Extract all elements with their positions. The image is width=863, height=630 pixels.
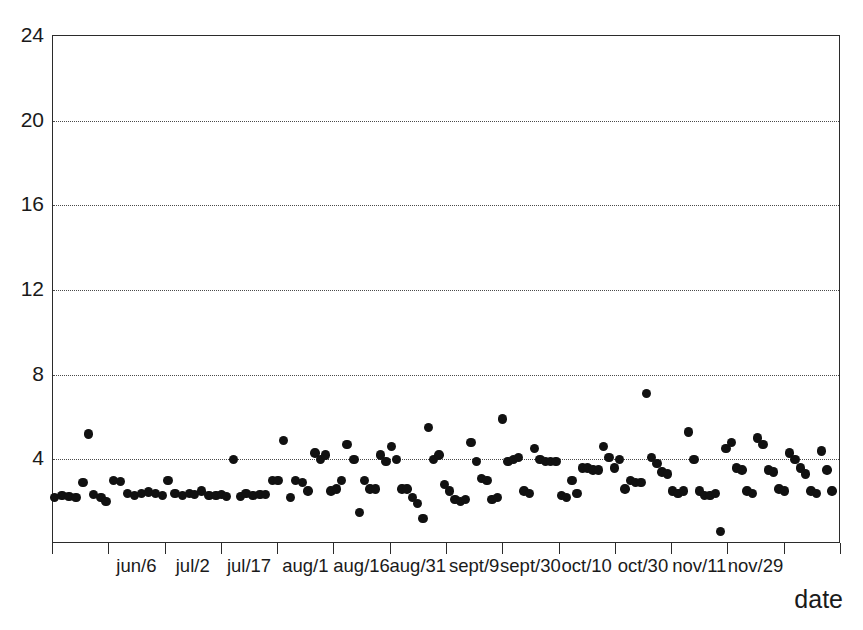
data-point	[769, 467, 778, 476]
x-tick-12	[727, 543, 728, 554]
y-axis-tick-labels: 4812162024	[0, 0, 44, 630]
data-point	[604, 453, 613, 462]
data-point	[392, 455, 401, 464]
x-tick-13	[784, 543, 785, 554]
y-tick-label-4: 4	[32, 447, 44, 468]
x-tick-label-jun-6: jun/6	[116, 555, 156, 577]
data-point	[817, 446, 826, 455]
x-axis-title: date	[794, 585, 843, 613]
data-point	[222, 492, 231, 501]
y-tick-label-20: 20	[21, 109, 44, 130]
data-point	[472, 457, 481, 466]
data-point	[716, 527, 725, 536]
y-tick-label-8: 8	[32, 363, 44, 384]
data-point	[498, 414, 507, 423]
x-tick-4	[277, 543, 278, 554]
x-tick-label-aug-16: aug/16	[333, 555, 390, 577]
data-point	[424, 423, 433, 432]
x-tick-14	[840, 543, 841, 554]
data-point	[737, 465, 746, 474]
gridline-y-12	[53, 290, 839, 291]
data-point	[780, 486, 789, 495]
data-point	[482, 476, 491, 485]
data-point	[711, 489, 720, 498]
data-point	[303, 486, 312, 495]
x-tick-6	[390, 543, 391, 554]
x-tick-9	[559, 543, 560, 554]
data-point	[337, 476, 346, 485]
data-point	[158, 491, 167, 500]
data-point	[273, 476, 282, 485]
data-point	[610, 463, 619, 472]
plot-frame	[52, 35, 840, 543]
data-point	[279, 436, 288, 445]
data-point	[514, 453, 523, 462]
data-point	[599, 442, 608, 451]
data-point	[822, 465, 831, 474]
data-point	[594, 465, 603, 474]
scatter-chart-figure: 4812162024 jun/6jul/2jul/17aug/1aug/16au…	[0, 0, 863, 630]
data-point	[342, 440, 351, 449]
data-point	[812, 489, 821, 498]
data-point	[84, 429, 93, 438]
data-point	[332, 484, 341, 493]
x-tick-label-nov-29: nov/29	[728, 555, 784, 577]
data-point	[355, 508, 364, 517]
data-point	[413, 499, 422, 508]
gridline-y-20	[53, 121, 839, 122]
y-tick-label-24: 24	[21, 24, 44, 45]
data-point	[758, 440, 767, 449]
data-point	[229, 455, 238, 464]
data-point	[642, 389, 651, 398]
x-tick-0	[52, 543, 53, 554]
data-point	[679, 486, 688, 495]
data-point	[381, 457, 390, 466]
plot-area	[53, 36, 839, 542]
data-point	[434, 450, 443, 459]
data-point	[493, 493, 502, 502]
x-tick-label-oct-30: oct/30	[618, 555, 668, 577]
data-point	[801, 469, 810, 478]
data-point	[163, 476, 172, 485]
data-point	[286, 493, 295, 502]
gridline-y-8	[53, 375, 839, 376]
data-point	[78, 478, 87, 487]
data-point	[727, 438, 736, 447]
data-point	[530, 444, 539, 453]
y-tick-label-16: 16	[21, 193, 44, 214]
data-point	[261, 490, 270, 499]
data-point	[418, 514, 427, 523]
x-tick-11	[671, 543, 672, 554]
data-point	[827, 486, 836, 495]
x-tick-label-jul-2: jul/2	[176, 555, 210, 577]
x-tick-7	[446, 543, 447, 554]
data-point	[387, 442, 396, 451]
data-point	[551, 457, 560, 466]
x-tick-8	[502, 543, 503, 554]
x-tick-5	[333, 543, 334, 554]
data-point	[349, 455, 358, 464]
data-point	[371, 484, 380, 493]
data-point	[567, 476, 576, 485]
data-point	[689, 455, 698, 464]
data-point	[116, 477, 125, 486]
x-tick-label-oct-10: oct/10	[562, 555, 612, 577]
data-point	[684, 427, 693, 436]
x-tick-10	[615, 543, 616, 554]
data-point	[636, 478, 645, 487]
data-point	[71, 493, 80, 502]
x-tick-label-aug-1: aug/1	[282, 555, 328, 577]
data-point	[615, 455, 624, 464]
x-tick-1	[108, 543, 109, 554]
x-tick-3	[221, 543, 222, 554]
data-point	[525, 489, 534, 498]
data-point	[461, 495, 470, 504]
data-point	[466, 438, 475, 447]
data-point	[101, 497, 110, 506]
x-tick-label-aug-31: aug/31	[390, 555, 447, 577]
gridline-y-4	[53, 459, 839, 460]
data-point	[748, 489, 757, 498]
x-tick-label-sept-9: sept/9	[449, 555, 499, 577]
gridline-y-16	[53, 205, 839, 206]
data-point	[620, 484, 629, 493]
